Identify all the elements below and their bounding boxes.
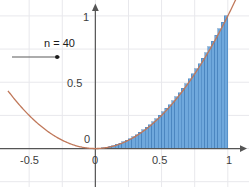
slider-handle[interactable] xyxy=(55,55,59,59)
slider-value-label: n = 40 xyxy=(44,38,75,49)
x-tick-label-0point5: 0.5 xyxy=(152,155,167,166)
x-tick-label-minus0point5: -0.5 xyxy=(20,155,39,166)
slider-widget[interactable] xyxy=(12,55,60,59)
x-tick-label-1: 1 xyxy=(226,155,232,166)
y-tick-label-1: 1 xyxy=(83,12,89,23)
x-tick-label-0: 0 xyxy=(92,155,98,166)
y-tick-label-0point5: 0.5 xyxy=(67,78,82,89)
riemann-sum-applet: 1 0.5 0 -0.5 0 0.5 1 n = 40 xyxy=(0,0,249,187)
y-tick-label-0: 0 xyxy=(84,134,90,145)
